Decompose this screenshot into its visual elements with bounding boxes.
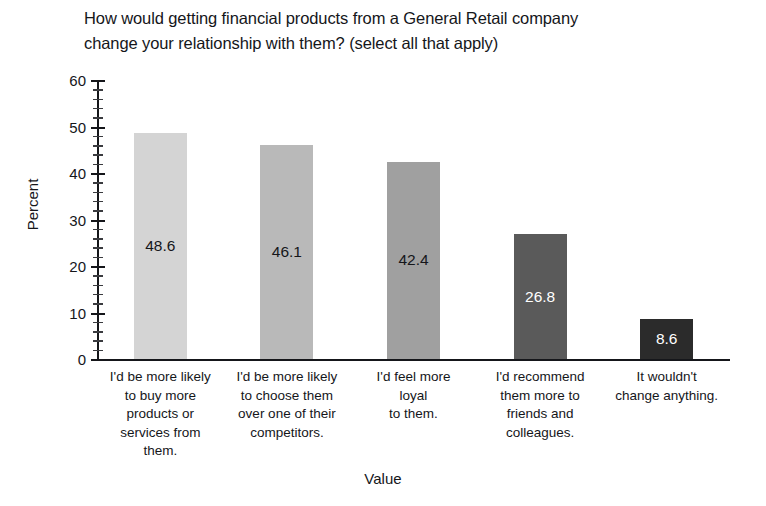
- bar[interactable]: 42.4: [387, 162, 440, 359]
- bar[interactable]: 46.1: [260, 145, 313, 359]
- bar-value-label: 46.1: [272, 243, 302, 261]
- bar[interactable]: 26.8: [514, 234, 567, 359]
- y-minor-tick: [93, 350, 103, 352]
- bar-value-label: 26.8: [525, 288, 555, 306]
- y-minor-tick: [93, 145, 103, 147]
- chart-title: How would getting financial products fro…: [84, 6, 724, 56]
- y-tick-mark: [91, 313, 105, 315]
- y-minor-tick: [93, 229, 103, 231]
- y-tick-label: 10: [69, 304, 86, 321]
- y-minor-tick: [93, 238, 103, 240]
- y-minor-tick: [93, 117, 103, 119]
- y-tick-mark: [91, 266, 105, 268]
- y-minor-tick: [93, 247, 103, 249]
- y-minor-tick: [93, 136, 103, 138]
- y-minor-tick: [93, 182, 103, 184]
- x-axis-category-label: It wouldn't change anything.: [603, 368, 730, 405]
- y-tick-label: 60: [69, 72, 86, 89]
- y-minor-tick: [93, 294, 103, 296]
- bar-value-label: 48.6: [145, 237, 175, 255]
- y-minor-tick: [93, 89, 103, 91]
- y-tick-label: 30: [69, 211, 86, 228]
- y-minor-tick: [93, 164, 103, 166]
- bar[interactable]: 48.6: [134, 133, 187, 359]
- y-minor-tick: [93, 275, 103, 277]
- x-axis-title: Value: [0, 470, 766, 487]
- x-axis-category-label: I'd recommend them more to friends and c…: [477, 368, 604, 442]
- y-minor-tick: [93, 331, 103, 333]
- y-minor-tick: [93, 154, 103, 156]
- y-minor-tick: [93, 210, 103, 212]
- bar-value-label: 42.4: [398, 251, 428, 269]
- plot-area: 0102030405060 48.646.142.426.88.6: [97, 80, 730, 361]
- bar-value-label: 8.6: [656, 330, 678, 348]
- y-tick-mark: [91, 220, 105, 222]
- y-minor-tick: [93, 322, 103, 324]
- y-minor-tick: [93, 99, 103, 101]
- x-axis-category-label: I'd be more likely to buy more products …: [97, 368, 224, 461]
- y-minor-tick: [93, 285, 103, 287]
- chart-page: How would getting financial products fro…: [0, 0, 766, 506]
- y-minor-tick: [93, 108, 103, 110]
- y-tick-mark: [91, 173, 105, 175]
- y-tick-label: 20: [69, 258, 86, 275]
- y-tick-label: 0: [78, 351, 86, 368]
- y-tick-mark: [91, 80, 105, 82]
- y-tick-mark: [91, 127, 105, 129]
- x-axis-category-label: I'd be more likely to choose them over o…: [224, 368, 351, 442]
- y-tick-label: 50: [69, 118, 86, 135]
- y-axis-title: Percent: [24, 155, 41, 255]
- y-minor-tick: [93, 257, 103, 259]
- y-minor-tick: [93, 303, 103, 305]
- y-minor-tick: [93, 340, 103, 342]
- y-minor-tick: [93, 201, 103, 203]
- y-minor-tick: [93, 192, 103, 194]
- bar[interactable]: 8.6: [640, 319, 693, 359]
- y-tick-mark: [91, 359, 105, 361]
- x-axis-category-label: I'd feel more loyal to them.: [350, 368, 477, 424]
- y-tick-label: 40: [69, 165, 86, 182]
- x-axis-line: [97, 359, 730, 361]
